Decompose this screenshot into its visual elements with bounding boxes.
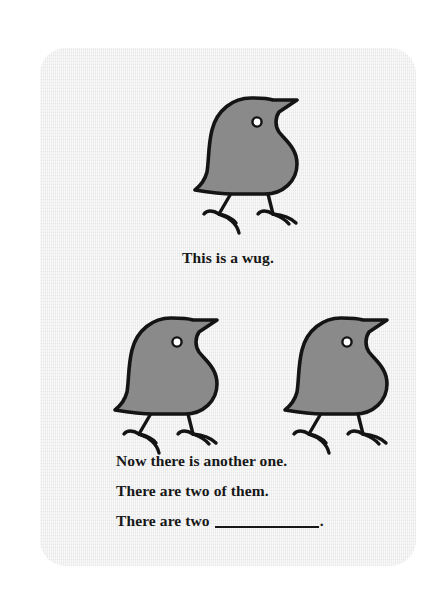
wug-bird-eye xyxy=(172,337,181,346)
caption-line-3-suffix: . xyxy=(320,512,324,529)
wug-bird-body xyxy=(285,318,387,414)
wug-test-card: This is a wug. xyxy=(40,48,416,566)
wug-bird-single xyxy=(185,86,317,246)
caption-line-3-prefix: There are two xyxy=(116,512,210,529)
caption-now-there-is-another-one: Now there is another one. xyxy=(116,452,287,470)
caption-this-is-a-wug: This is a wug. xyxy=(40,249,416,267)
wug-bird-eye xyxy=(252,117,261,126)
wug-bird-legs xyxy=(124,410,216,453)
caption-there-are-two-of-them: There are two of them. xyxy=(116,482,269,500)
wug-bird-legs xyxy=(204,190,296,233)
wug-bird-eye xyxy=(342,337,351,346)
answer-blank[interactable] xyxy=(215,513,319,528)
wug-bird-pair-left xyxy=(105,306,237,466)
wug-bird-body xyxy=(115,318,217,414)
wug-bird-pair-right xyxy=(275,306,407,466)
wug-bird-legs xyxy=(294,410,386,453)
caption-there-are-two-blank: There are two. xyxy=(116,512,324,530)
wug-bird-body xyxy=(195,98,297,194)
